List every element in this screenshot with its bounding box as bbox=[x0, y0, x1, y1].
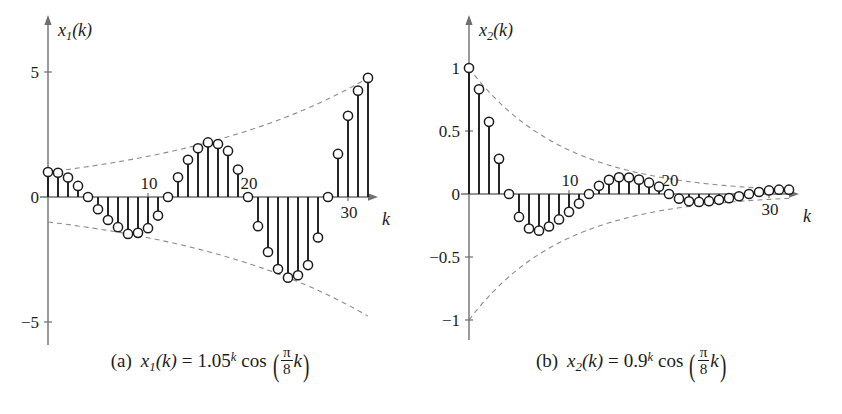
stem-marker bbox=[273, 264, 282, 273]
stem-marker bbox=[594, 181, 603, 190]
stem-marker bbox=[113, 223, 122, 232]
panel-b: 10.50−0.5−1102030x2(k)k (b)x2(k)=0.9kcos… bbox=[421, 0, 842, 414]
x-axis-label: k bbox=[382, 209, 391, 229]
caption-a-arg: (k) bbox=[156, 350, 177, 371]
plot-b: 10.50−0.5−1102030x2(k)k bbox=[421, 0, 842, 360]
caption-b-frac-num: π bbox=[698, 344, 710, 361]
stem-marker bbox=[203, 138, 212, 147]
stem-marker bbox=[43, 167, 52, 176]
stem-marker bbox=[283, 273, 292, 282]
stem-marker bbox=[213, 139, 222, 148]
stem-marker bbox=[353, 86, 362, 95]
stem-marker bbox=[754, 187, 763, 196]
stem-marker bbox=[604, 175, 613, 184]
y-tick-label: −0.5 bbox=[429, 248, 460, 267]
y-tick-label: 0 bbox=[452, 185, 461, 204]
stem-marker bbox=[504, 189, 513, 198]
stem-marker bbox=[93, 205, 102, 214]
caption-b-frac-var: k bbox=[710, 350, 718, 371]
stem-marker bbox=[143, 224, 152, 233]
x-tick-label: 10 bbox=[141, 174, 158, 193]
stem-marker bbox=[644, 178, 653, 187]
stem-marker bbox=[734, 192, 743, 201]
stem-marker bbox=[63, 173, 72, 182]
stem-marker bbox=[333, 149, 342, 158]
caption-b-paren-open: ( bbox=[689, 349, 695, 384]
caption-b-cos: cos bbox=[658, 350, 683, 371]
caption-a-cos: cos bbox=[241, 350, 266, 371]
caption-a-fraction: π8 bbox=[281, 344, 293, 376]
y-tick-label: −1 bbox=[442, 311, 460, 330]
stem-marker bbox=[494, 154, 503, 163]
stem-marker bbox=[564, 207, 573, 216]
caption-b-base: 0.9 bbox=[624, 350, 648, 371]
stem-marker bbox=[704, 197, 713, 206]
y-axis-label-arg: (k) bbox=[493, 20, 513, 41]
stem-marker bbox=[664, 189, 673, 198]
stem-marker bbox=[153, 211, 162, 220]
x-tick-label: 30 bbox=[341, 203, 358, 222]
caption-a-frac-den: 8 bbox=[281, 361, 293, 377]
stem-marker bbox=[654, 182, 663, 191]
caption-b-fraction: π8 bbox=[698, 344, 710, 376]
caption-a-tag: (a) bbox=[111, 350, 132, 371]
y-tick-label: 0 bbox=[31, 188, 40, 207]
stem-marker bbox=[253, 222, 262, 231]
stem-marker bbox=[474, 85, 483, 94]
y-axis-arrow bbox=[44, 15, 51, 25]
y-tick-label: 0.5 bbox=[439, 122, 460, 141]
stem-marker bbox=[103, 215, 112, 224]
caption-b-tag: (b) bbox=[536, 350, 558, 371]
stem-marker bbox=[684, 197, 693, 206]
stem-marker bbox=[714, 195, 723, 204]
stem-marker bbox=[163, 192, 172, 201]
stem-marker bbox=[233, 165, 242, 174]
stem-marker bbox=[584, 189, 593, 198]
caption-b-paren-close: ) bbox=[720, 349, 726, 384]
caption-a-frac-var: k bbox=[294, 350, 302, 371]
stem-marker bbox=[544, 222, 553, 231]
stem-marker bbox=[694, 197, 703, 206]
y-axis-label: x2(k) bbox=[478, 20, 513, 43]
stem-marker bbox=[784, 185, 793, 194]
caption-b-equals: = bbox=[608, 350, 619, 371]
stem-marker bbox=[193, 144, 202, 153]
x-tick-label: 30 bbox=[762, 200, 779, 219]
envelope-upper bbox=[469, 68, 789, 190]
caption-b-frac-den: 8 bbox=[698, 361, 710, 377]
stem-marker bbox=[173, 173, 182, 182]
caption-b-exponent: k bbox=[648, 350, 654, 364]
y-tick-label: −5 bbox=[21, 313, 39, 332]
stem-marker bbox=[764, 186, 773, 195]
stem-marker bbox=[83, 192, 92, 201]
stem-marker bbox=[133, 228, 142, 237]
x-axis-arrow bbox=[368, 193, 378, 201]
stem-marker bbox=[524, 224, 533, 233]
stem-marker bbox=[313, 233, 322, 242]
stem-series bbox=[43, 73, 372, 282]
caption-a-base: 1.05 bbox=[198, 350, 231, 371]
stem-marker bbox=[724, 194, 733, 203]
stem-marker bbox=[574, 199, 583, 208]
y-axis-label: x1(k) bbox=[57, 20, 92, 43]
figure-stem-plots: 50−5102030x1(k)k (a)x1(k)=1.05kcos(π8k) … bbox=[0, 0, 842, 414]
caption-a-paren-open: ( bbox=[273, 349, 279, 384]
stem-marker bbox=[343, 111, 352, 120]
stem-marker bbox=[534, 226, 543, 235]
caption-a-func: x bbox=[141, 350, 149, 371]
x-tick-label: 20 bbox=[241, 174, 258, 193]
x-tick-label: 10 bbox=[562, 171, 579, 190]
stem-marker bbox=[624, 173, 633, 182]
caption-a-equals: = bbox=[182, 350, 193, 371]
stem-marker bbox=[263, 247, 272, 256]
stem-marker bbox=[514, 212, 523, 221]
stem-marker bbox=[744, 189, 753, 198]
x-axis-label: k bbox=[803, 206, 812, 226]
stem-marker bbox=[484, 117, 493, 126]
caption-b-func: x bbox=[567, 350, 575, 371]
stem-marker bbox=[634, 175, 643, 184]
caption-b: (b)x2(k)=0.9kcos(π8k) bbox=[421, 344, 842, 384]
stem-marker bbox=[73, 181, 82, 190]
stem-marker bbox=[183, 155, 192, 164]
panel-a: 50−5102030x1(k)k (a)x1(k)=1.05kcos(π8k) bbox=[0, 0, 421, 414]
